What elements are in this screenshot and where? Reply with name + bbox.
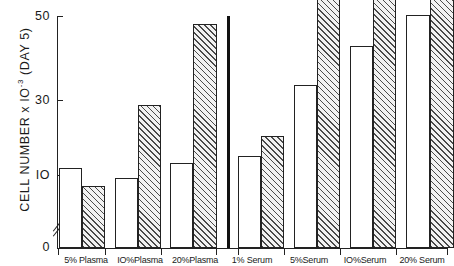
bar-open-20-serum bbox=[406, 15, 430, 248]
bar-open-5-serum bbox=[294, 85, 317, 248]
bar-open-10-plasma bbox=[115, 178, 138, 248]
x-tick-2 bbox=[161, 248, 162, 255]
bar-hatched-10-plasma bbox=[138, 105, 161, 248]
y-tick-label-30: 30 bbox=[16, 93, 50, 107]
x-axis-label-20-serum: 20% Serum bbox=[392, 255, 452, 265]
bar-hatched-1-serum bbox=[261, 136, 284, 248]
group-divider bbox=[227, 16, 230, 248]
x-axis-label-10-serum: IO%Serum bbox=[337, 255, 393, 265]
x-tick-4 bbox=[238, 248, 239, 255]
y-tick-label-50: 50 bbox=[16, 9, 50, 23]
y-tick-label-0: 0 bbox=[16, 240, 50, 254]
x-tick-7 bbox=[396, 248, 397, 255]
x-axis-label-1-serum: 1% Serum bbox=[226, 255, 278, 265]
x-tick-5 bbox=[284, 248, 285, 255]
bar-hatched-20-plasma bbox=[193, 24, 217, 248]
bar-hatched-5-serum bbox=[317, 0, 340, 248]
plot-area bbox=[58, 0, 448, 248]
bar-open-5-plasma bbox=[59, 168, 82, 248]
y-axis-title-exponent: -3 bbox=[16, 79, 25, 87]
x-tick-0 bbox=[58, 248, 59, 255]
bar-hatched-5-plasma bbox=[82, 186, 105, 248]
x-axis-label-10-plasma: IO%Plasma bbox=[112, 255, 168, 265]
x-tick-8 bbox=[447, 248, 448, 255]
bar-open-10-serum bbox=[350, 46, 373, 248]
x-axis-label-5-serum: 5%Serum bbox=[282, 255, 336, 265]
x-axis-label-20-plasma: 20%Plasma bbox=[166, 255, 224, 265]
bar-open-20-plasma bbox=[170, 163, 193, 248]
y-axis-title: CELL NUMBER x IO-3 (DAY 5) bbox=[16, 0, 31, 240]
x-tick-6 bbox=[340, 248, 341, 255]
bar-hatched-10-serum bbox=[373, 0, 396, 248]
y-axis-title-suffix: (DAY 5) bbox=[18, 27, 32, 79]
y-tick-label-10: IO bbox=[16, 168, 50, 182]
bar-hatched-20-serum bbox=[430, 0, 454, 248]
x-axis-label-5-plasma: 5% Plasma bbox=[58, 255, 114, 265]
x-tick-1 bbox=[105, 248, 106, 255]
bar-open-1-serum bbox=[238, 156, 261, 248]
x-tick-3 bbox=[216, 248, 217, 255]
bar-chart-figure: CELL NUMBER x IO-3 (DAY 5) 50 30 IO 0 bbox=[0, 0, 454, 266]
